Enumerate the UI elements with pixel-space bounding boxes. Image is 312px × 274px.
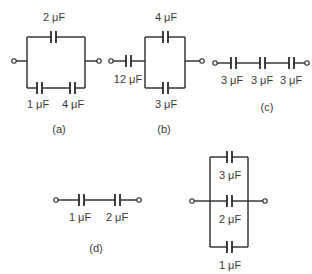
terminal-c-right [305,61,309,65]
cap-b-4uf: 4 μF [155,11,178,23]
terminal-b-right [200,59,204,63]
cap-c-3uf-3: 3 μF [280,74,303,86]
cap-e-2uf: 2 μF [219,213,242,225]
cap-e-1uf: 1 μF [219,259,242,271]
terminal-e-right [263,199,267,203]
cap-d-2uf: 2 μF [106,211,129,223]
label-b: (b) [157,123,170,135]
capacitor-circuits-diagram: 2 μF 1 μF 4 μF (a) 4 μF 12 μF 3 μF (b) [0,0,312,274]
cap-d-1uf: 1 μF [69,211,92,223]
terminal-d-left [54,198,58,202]
label-a: (a) [52,123,65,135]
cap-c-3uf-2: 3 μF [251,74,274,86]
terminal-a-left [12,59,16,63]
circuit-e: 3 μF 2 μF 1 μF [190,151,267,271]
terminal-d-right [137,198,141,202]
circuit-b: 4 μF 12 μF 3 μF (b) [109,11,204,135]
circuit-d: 1 μF 2 μF (d) [54,194,141,254]
terminal-b-left [109,59,113,63]
label-d: (d) [89,242,102,254]
cap-a-4uf: 4 μF [62,98,85,110]
circuit-c: 3 μF 3 μF 3 μF (c) [213,57,309,113]
terminal-c-left [213,61,217,65]
circuit-a: 2 μF 1 μF 4 μF (a) [12,11,101,135]
cap-a-2uf: 2 μF [43,11,66,23]
cap-b-3uf: 3 μF [155,98,178,110]
cap-b-12uf: 12 μF [114,73,143,85]
cap-a-1uf: 1 μF [27,98,50,110]
terminal-a-right [97,59,101,63]
terminal-e-left [190,199,194,203]
cap-c-3uf-1: 3 μF [221,74,244,86]
cap-e-3uf: 3 μF [219,169,242,181]
label-c: (c) [261,101,274,113]
